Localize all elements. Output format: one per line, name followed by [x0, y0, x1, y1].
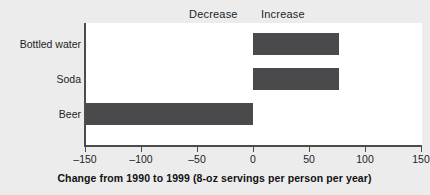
bar-soda: [253, 68, 339, 90]
x-tick-label: –50: [188, 153, 206, 165]
decrease-annotation: Decrease: [189, 8, 238, 20]
x-tick-mark: [141, 147, 142, 152]
x-tick-label: 150: [412, 153, 430, 165]
bar-bottled-water: [253, 33, 339, 55]
increase-annotation: Increase: [261, 8, 305, 20]
x-tick-label: 0: [250, 153, 256, 165]
x-tick-label: –100: [129, 153, 152, 165]
x-tick-mark: [85, 147, 86, 152]
category-label-beer: Beer: [1, 108, 81, 120]
x-tick-mark: [253, 147, 254, 152]
x-tick-mark: [365, 147, 366, 152]
bar-beer: [85, 103, 253, 125]
x-tick-mark: [197, 147, 198, 152]
x-tick-mark: [309, 147, 310, 152]
x-tick-mark: [421, 147, 422, 152]
category-label-bottled-water: Bottled water: [1, 38, 81, 50]
x-tick-label: –150: [73, 153, 96, 165]
y-axis-line: [84, 23, 86, 147]
category-label-group: Bottled water Soda Beer: [0, 0, 81, 195]
x-tick-label: 50: [303, 153, 315, 165]
category-label-soda: Soda: [1, 73, 81, 85]
x-tick-label: 100: [356, 153, 374, 165]
x-axis-title: Change from 1990 to 1999 (8-oz servings …: [0, 172, 429, 184]
